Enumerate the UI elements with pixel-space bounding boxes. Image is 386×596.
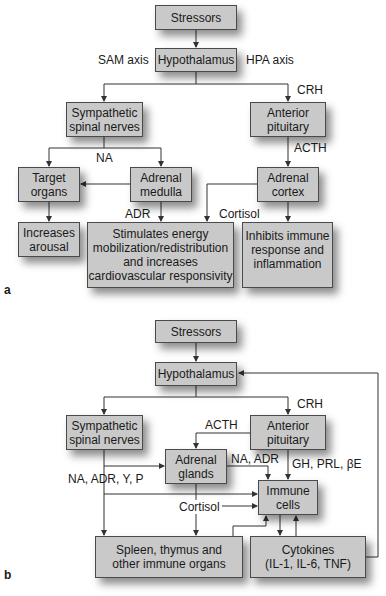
sympathetic-nerves-box-a: Sympathetic spinal nerves [66,102,143,137]
na-adr-y-p-label: NA, ADR, Y, P [68,472,144,486]
acth-label-b: ACTH [205,418,238,432]
hpa-axis-label: HPA axis [246,53,294,67]
crh-label-a: CRH [297,83,323,97]
sympathetic-nerves-box-b: Sympathetic spinal nerves [66,415,143,450]
spleen-thymus-box: Spleen, thymus and other immune organs [95,536,243,578]
adr-label: ADR [125,207,150,221]
cortisol-label-a: Cortisol [219,207,260,221]
stressors-box-b: Stressors [155,320,237,343]
stimulates-energy-box: Stimulates energy mobilization/redistrib… [87,222,234,288]
adrenal-glands-box: Adrenal glands [165,449,227,484]
increases-arousal-box: Increases arousal [18,222,80,257]
panel-label-b: b [4,568,11,582]
stressors-box-a: Stressors [155,5,237,30]
immune-cells-box: Immune cells [258,480,318,515]
anterior-pituitary-box-b: Anterior pituitary [250,415,326,450]
acth-label-a: ACTH [294,141,327,155]
adrenal-medulla-box: Adrenal medulla [130,167,192,202]
gh-prl-be-label: GH, PRL, βE [292,457,362,471]
inhibits-immune-box: Inhibits immune response and inflammatio… [242,222,333,288]
target-organs-box: Target organs [18,167,80,202]
na-label: NA [96,151,113,165]
panel-label-a: a [4,283,11,297]
anterior-pituitary-box-a: Anterior pituitary [250,102,326,137]
sam-axis-label: SAM axis [98,53,149,67]
cortisol-label-b: Cortisol [177,500,222,514]
crh-label-b: CRH [297,397,323,411]
hypothalamus-box-b: Hypothalamus [155,362,237,386]
hypothalamus-box-a: Hypothalamus [155,48,237,72]
adrenal-cortex-box: Adrenal cortex [257,167,319,202]
na-adr-label: NA, ADR [231,452,279,466]
cytokines-box: Cytokines (IL-1, IL-6, TNF) [250,536,366,578]
